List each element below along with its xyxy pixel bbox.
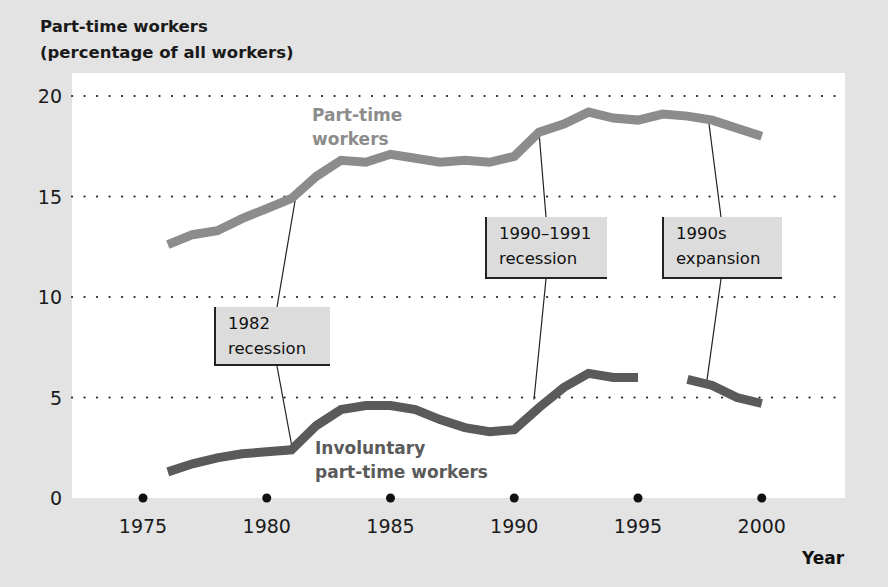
series-label-involuntary-line-2: part-time workers — [315, 460, 488, 484]
annotation-1982-line-2: recession — [228, 336, 322, 361]
plot-background — [72, 73, 845, 498]
x-tick-label-1975: 1975 — [119, 515, 167, 537]
x-tick-label-1980: 1980 — [243, 515, 291, 537]
x-axis-label: Year — [802, 548, 844, 568]
y-tick-label-5: 5 — [50, 387, 62, 409]
annotation-1990s-line-2: expansion — [676, 246, 774, 271]
series-label-part-time: Part-time workers — [312, 103, 402, 151]
x-tick-label-1990: 1990 — [490, 515, 538, 537]
x-tick-dot-2000 — [757, 494, 766, 503]
x-tick-label-2000: 2000 — [738, 515, 786, 537]
x-tick-label-1985: 1985 — [366, 515, 414, 537]
annotation-1982-recession: 1982 recession — [214, 307, 330, 366]
annotation-1990-1991-line-1: 1990–1991 — [499, 221, 599, 246]
annotation-1990s-expansion: 1990s expansion — [662, 217, 782, 279]
y-tick-label-0: 0 — [50, 487, 62, 509]
series-label-involuntary: Involuntary part-time workers — [315, 436, 488, 484]
series-label-part-time-line-1: Part-time — [312, 103, 402, 127]
plot-area: 05101520197519801985199019952000 — [0, 0, 888, 587]
y-tick-label-10: 10 — [38, 286, 62, 308]
x-tick-dot-1985 — [386, 494, 395, 503]
annotation-1990-1991-recession: 1990–1991 recession — [485, 217, 607, 279]
x-tick-dot-1990 — [510, 494, 519, 503]
x-tick-label-1995: 1995 — [614, 515, 662, 537]
annotation-1990s-line-1: 1990s — [676, 221, 774, 246]
x-tick-dot-1975 — [139, 494, 148, 503]
y-tick-label-15: 15 — [38, 186, 62, 208]
x-tick-dot-1980 — [262, 494, 271, 503]
chart-figure: Part-time workers (percentage of all wor… — [0, 0, 888, 587]
annotation-1990-1991-line-2: recession — [499, 246, 599, 271]
y-tick-label-20: 20 — [38, 85, 62, 107]
x-tick-dot-1995 — [634, 494, 643, 503]
series-label-involuntary-line-1: Involuntary — [315, 436, 488, 460]
annotation-1982-line-1: 1982 — [228, 311, 322, 336]
series-label-part-time-line-2: workers — [312, 127, 402, 151]
